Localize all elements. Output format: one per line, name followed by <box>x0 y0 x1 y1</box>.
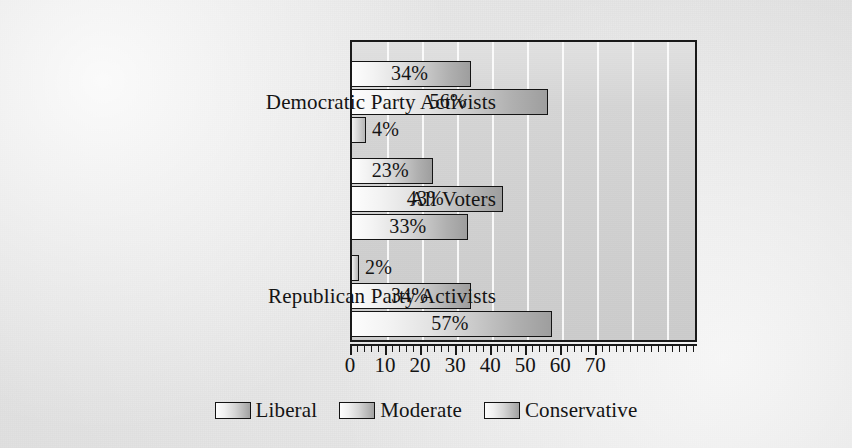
axis-tick-minor <box>567 345 568 352</box>
bar-value-label: 56% <box>350 91 546 111</box>
chart-page: Democratic Party ActivistsAll VotersRepu… <box>0 0 852 448</box>
axis-tick-minor <box>399 345 400 352</box>
bar-value-label: 34% <box>350 285 469 305</box>
axis-tick-minor <box>665 345 666 352</box>
axis-tick-minor <box>518 345 519 352</box>
axis-tick-minor <box>539 345 540 352</box>
axis-tick-minor <box>476 345 477 352</box>
bar-value-label: 34% <box>350 63 469 83</box>
legend: LiberalModerateConservative <box>0 400 852 421</box>
bar <box>351 255 359 281</box>
legend-label: Moderate <box>380 400 462 421</box>
legend-swatch-icon <box>484 402 520 419</box>
axis-tick-minor <box>686 345 687 352</box>
axis-tick-minor <box>644 345 645 352</box>
legend-swatch-icon <box>339 402 375 419</box>
axis-tick-minor <box>504 345 505 352</box>
legend-label: Liberal <box>256 400 318 421</box>
axis-tick-minor <box>364 345 365 352</box>
axis-tick-minor <box>581 345 582 352</box>
axis-tick-minor <box>497 345 498 352</box>
axis-tick-minor <box>413 345 414 352</box>
axis-tick-minor <box>651 345 652 352</box>
bar-value-label: 4% <box>372 119 399 139</box>
axis-tick-minor <box>371 345 372 352</box>
axis-tick-minor <box>392 345 393 352</box>
axis-tick-minor <box>553 345 554 352</box>
gridline <box>667 42 669 340</box>
axis-tick-minor <box>469 345 470 352</box>
axis-tick-minor <box>434 345 435 352</box>
axis-tick-minor <box>658 345 659 352</box>
bar-value-label: 23% <box>350 160 431 180</box>
x-tick-label: 40 <box>470 355 510 376</box>
gridline <box>527 42 529 340</box>
axis-tick-minor <box>672 345 673 352</box>
x-tick-label: 20 <box>400 355 440 376</box>
axis-tick-minor <box>630 345 631 352</box>
axis-tick-minor <box>441 345 442 352</box>
bar-value-label: 2% <box>365 257 392 277</box>
axis-tick-minor <box>602 345 603 352</box>
axis-tick-minor <box>574 345 575 352</box>
axis-tick-minor <box>378 345 379 352</box>
axis-tick-minor <box>679 345 680 352</box>
legend-item[interactable]: Liberal <box>215 400 318 421</box>
x-tick-label: 30 <box>435 355 475 376</box>
axis-tick-minor <box>623 345 624 352</box>
axis-tick-minor <box>406 345 407 352</box>
gridline <box>632 42 634 340</box>
x-tick-label: 10 <box>365 355 405 376</box>
bar-value-label: 57% <box>350 313 550 333</box>
axis-tick-minor <box>693 345 694 352</box>
axis-tick-minor <box>427 345 428 352</box>
legend-label: Conservative <box>525 400 638 421</box>
legend-swatch-icon <box>215 402 251 419</box>
legend-item[interactable]: Moderate <box>339 400 462 421</box>
axis-tick-minor <box>616 345 617 352</box>
axis-tick-minor <box>637 345 638 352</box>
axis-tick-minor <box>462 345 463 352</box>
axis-tick-minor <box>511 345 512 352</box>
axis-tick-minor <box>483 345 484 352</box>
legend-item[interactable]: Conservative <box>484 400 638 421</box>
axis-tick-minor <box>357 345 358 352</box>
gridline <box>562 42 564 340</box>
x-tick-label: 0 <box>330 355 370 376</box>
gridline <box>597 42 599 340</box>
bar <box>351 117 366 143</box>
axis-tick-minor <box>448 345 449 352</box>
axis-tick-minor <box>546 345 547 352</box>
x-tick-label: 50 <box>505 355 545 376</box>
bar-value-label: 43% <box>350 188 501 208</box>
axis-tick-minor <box>609 345 610 352</box>
x-tick-label: 70 <box>575 355 615 376</box>
bar-value-label: 33% <box>350 216 466 236</box>
axis-tick-minor <box>532 345 533 352</box>
axis-tick-minor <box>588 345 589 352</box>
x-tick-label: 60 <box>540 355 580 376</box>
